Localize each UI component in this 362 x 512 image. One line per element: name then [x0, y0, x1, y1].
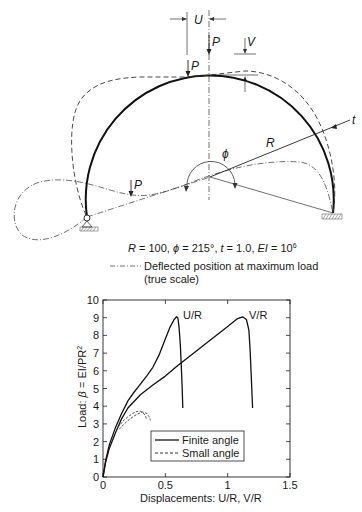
phi-arrowhead-left [184, 186, 189, 192]
u-arrowhead-left [182, 17, 187, 21]
legend-dashdot-line1: Deflected position at maximum load [144, 260, 318, 272]
left-pin-support [84, 215, 90, 221]
u-r-annotation: U/R [183, 309, 202, 321]
y-tick-label: 6 [93, 365, 99, 377]
y-tick-label: 3 [93, 418, 99, 430]
x-tick-label: 1 [225, 479, 231, 491]
y-tick-label: 4 [93, 400, 99, 412]
t-arrowhead [331, 124, 337, 129]
u-arrowhead-right [209, 17, 214, 21]
v-r-annotation: V/R [249, 309, 267, 321]
y-tick-label: 10 [87, 294, 99, 306]
p-left-label: P [134, 178, 142, 192]
y-tick-label: 2 [93, 436, 99, 448]
series-finite-angle-u-r [103, 317, 183, 477]
p-inner-label: P [191, 59, 199, 73]
y-tick-label: 9 [93, 312, 99, 324]
parameters-text: R = 100, ϕ = 215°, t = 1.0, EI = 106 [128, 242, 297, 254]
original-arch [86, 75, 334, 217]
arch-diagram: U P V P P R t ϕ [0, 0, 362, 290]
right-support-ground [322, 214, 342, 219]
legend-finite-angle: Finite angle [182, 434, 239, 446]
p-top-arrowhead [207, 49, 212, 55]
x-tick-label: 0.5 [158, 479, 173, 491]
p-left-arrowhead [129, 191, 134, 197]
x-tick-label: 1.5 [282, 479, 297, 491]
left-support-hatch [81, 227, 96, 231]
phi-label: ϕ [222, 147, 229, 161]
x-tick-label: 0 [100, 479, 106, 491]
x-axis-label: Displacements: U/R, V/R [140, 492, 262, 504]
y-tick-label: 8 [93, 329, 99, 341]
v-arrowhead-top [243, 49, 247, 54]
right-support-hatch [323, 214, 341, 219]
v-label: V [247, 35, 256, 49]
chord-right [210, 177, 333, 213]
left-support-triangle [82, 221, 92, 227]
series-finite-angle-v-r [103, 317, 253, 477]
t-label: t [352, 113, 356, 127]
legend-small-angle: Small angle [182, 447, 239, 459]
r-label: R [266, 136, 275, 150]
p-top-label: P [212, 35, 220, 49]
y-tick-label: 0 [93, 471, 99, 483]
chord-left [87, 177, 210, 217]
legend-dashdot-line2: (true scale) [144, 273, 199, 285]
deflected-max-load-dashdot [14, 162, 333, 240]
u-label: U [194, 13, 203, 27]
phi-angle-arc [187, 161, 235, 187]
y-tick-label: 7 [93, 347, 99, 359]
y-tick-label: 5 [93, 383, 99, 395]
chart-legend-box [151, 431, 244, 461]
series-small-angle-u-r [118, 411, 147, 427]
phi-arrowhead-right [233, 183, 238, 189]
series-small-angle-v-r [119, 412, 150, 429]
plot-frame [103, 300, 290, 477]
deflected-arch-dashed [72, 71, 335, 215]
y-axis-label: Load: β = EI/PR2 [76, 346, 88, 428]
y-tick-label: 1 [93, 453, 99, 465]
